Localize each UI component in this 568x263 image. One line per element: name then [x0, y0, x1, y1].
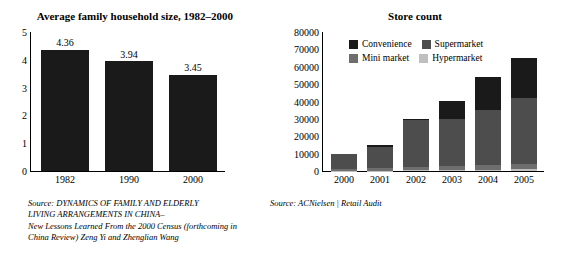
right-ytick-60000: 60000	[294, 61, 323, 72]
right-bar-2001	[367, 145, 393, 171]
segment-convenience	[439, 101, 465, 119]
right-xlabel-2005: 2005	[514, 171, 534, 185]
figure-pair: Average family household size, 1982–2000…	[0, 0, 568, 263]
segment-supermarket	[439, 119, 465, 167]
right-source-line-1: Source: ACNielsen | Retail Audit	[270, 198, 550, 209]
right-chart-panel: Store count 80000 70000 60000 50000 4000…	[270, 0, 568, 263]
left-bar-label-1990: 3.94	[120, 49, 138, 60]
right-bar-2000	[331, 154, 357, 172]
left-ytick-0: 0	[22, 166, 31, 177]
right-ytick-50000: 50000	[294, 79, 323, 90]
segment-convenience	[403, 119, 429, 121]
legend-label-convenience: Convenience	[362, 39, 412, 49]
legend-swatch-mini-market	[349, 54, 358, 63]
left-source-line-4: China Review) Zeng Yi and Zhenglian Wang	[28, 232, 268, 243]
left-ytick-2: 2	[22, 110, 31, 121]
left-source-note: Source: DYNAMICS OF FAMILY AND ELDERLY L…	[28, 198, 268, 243]
right-ytick-80000: 80000	[294, 27, 323, 38]
left-bar-label-1982: 4.36	[56, 37, 74, 48]
left-xlabel-1990: 1990	[119, 171, 139, 185]
right-ytick-30000: 30000	[294, 113, 323, 124]
left-source-line-2: LIVING ARRANGEMENTS IN CHINA–	[28, 209, 268, 220]
right-xlabel-2002: 2002	[406, 171, 426, 185]
right-ytick-20000: 20000	[294, 131, 323, 142]
right-ytick-0: 0	[314, 166, 323, 177]
legend-entry-convenience: Convenience	[349, 39, 412, 49]
left-chart-title: Average family household size, 1982–2000	[0, 10, 270, 22]
segment-mini-market	[475, 165, 501, 170]
segment-mini-market	[403, 167, 429, 170]
legend-row-1: Convenience Supermarket	[349, 38, 493, 50]
legend-entry-hypermarket: Hypermarket	[419, 53, 482, 63]
legend-entry-mini-market: Mini market	[349, 53, 409, 63]
segment-supermarket	[403, 120, 429, 167]
right-ytick-40000: 40000	[294, 96, 323, 107]
right-chart-legend: Convenience Supermarket Mini market Hype…	[349, 38, 493, 66]
left-bar-label-2000: 3.45	[184, 62, 202, 73]
segment-supermarket	[331, 154, 357, 169]
legend-row-2: Mini market Hypermarket	[349, 52, 493, 64]
left-xlabel-2000: 2000	[183, 171, 203, 185]
right-bar-2004	[475, 77, 501, 172]
segment-convenience	[511, 58, 537, 97]
segment-convenience	[475, 77, 501, 110]
segment-convenience	[367, 145, 393, 147]
left-plot-area: 5 4 3 2 1 0 4.36 3.94 3.45 1982 1990 200…	[30, 32, 225, 172]
right-xlabel-2004: 2004	[478, 171, 498, 185]
legend-label-mini-market: Mini market	[362, 53, 409, 63]
left-ytick-4: 4	[22, 54, 31, 65]
legend-swatch-hypermarket	[419, 54, 428, 63]
left-bar-1982	[41, 50, 89, 171]
left-xlabel-1982: 1982	[55, 171, 75, 185]
left-chart-panel: Average family household size, 1982–2000…	[0, 0, 270, 263]
right-ytick-10000: 10000	[294, 148, 323, 159]
legend-label-hypermarket: Hypermarket	[432, 53, 482, 63]
left-ytick-1: 1	[22, 138, 31, 149]
right-plot-area: 80000 70000 60000 50000 40000 30000 2000…	[322, 32, 544, 172]
legend-label-supermarket: Supermarket	[435, 39, 484, 49]
right-ytick-70000: 70000	[294, 44, 323, 55]
left-source-line-1: Source: DYNAMICS OF FAMILY AND ELDERLY	[28, 198, 268, 209]
right-bar-2003	[439, 101, 465, 171]
right-xlabel-2000: 2000	[334, 171, 354, 185]
right-xlabel-2001: 2001	[370, 171, 390, 185]
legend-swatch-supermarket	[422, 40, 431, 49]
legend-entry-supermarket: Supermarket	[422, 39, 484, 49]
left-ytick-3: 3	[22, 82, 31, 93]
segment-supermarket	[367, 147, 393, 168]
segment-supermarket	[475, 110, 501, 165]
right-source-note: Source: ACNielsen | Retail Audit	[270, 198, 550, 209]
segment-mini-market	[439, 166, 465, 170]
right-xlabel-2003: 2003	[442, 171, 462, 185]
segment-mini-market	[511, 164, 537, 169]
right-chart-title: Store count	[270, 10, 560, 22]
left-bar-1990	[105, 61, 153, 171]
right-bar-2002	[403, 119, 429, 172]
left-ytick-5: 5	[22, 27, 31, 38]
left-source-line-3: New Lessons Learned From the 2000 Census…	[28, 221, 268, 232]
right-bar-2005	[511, 58, 537, 171]
left-bar-2000	[169, 75, 217, 171]
segment-supermarket	[511, 98, 537, 165]
legend-swatch-convenience	[349, 40, 358, 49]
